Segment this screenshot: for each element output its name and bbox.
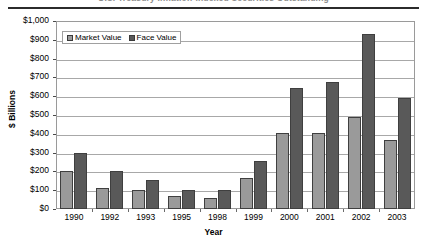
y-tick-mark	[53, 171, 56, 172]
bar	[398, 98, 411, 209]
x-tick-mark	[164, 209, 165, 212]
y-tick-mark	[53, 190, 56, 191]
x-tick-mark	[128, 209, 129, 212]
x-tick-label: 2003	[379, 212, 415, 222]
x-tick-mark	[271, 209, 272, 212]
bars-layer	[56, 21, 415, 209]
x-tick-label: 2002	[343, 212, 379, 222]
legend-item: Face Value	[129, 33, 177, 42]
y-tick-label: $0	[40, 204, 49, 213]
bar	[74, 153, 87, 209]
y-tick-label: $200	[30, 166, 49, 175]
y-tick-label: $800	[30, 54, 49, 63]
bar	[110, 171, 123, 209]
bar	[384, 140, 397, 209]
bar	[254, 161, 267, 209]
x-tick-label: 2000	[271, 212, 307, 222]
bar	[96, 188, 109, 209]
x-axis-title: Year	[0, 227, 427, 237]
chart-legend: Market ValueFace Value	[62, 31, 181, 44]
y-tick-label: $900	[30, 35, 49, 44]
y-tick-label: $300	[30, 148, 49, 157]
y-tick-mark	[53, 40, 56, 41]
x-tick-label: 1993	[128, 212, 164, 222]
y-tick-label: $400	[30, 129, 49, 138]
bar	[290, 88, 303, 209]
chart-container: $0$100$200$300$400$500$600$700$800$900$1…	[0, 0, 427, 244]
legend-label: Market Value	[75, 33, 122, 42]
x-axis-labels: 1990199219931995199819992000200120022003	[56, 212, 415, 226]
bar	[218, 190, 231, 209]
y-tick-mark	[53, 59, 56, 60]
y-tick-mark	[53, 21, 56, 22]
y-tick-mark	[53, 77, 56, 78]
bar	[146, 180, 159, 209]
x-tick-mark	[200, 209, 201, 212]
bar	[240, 178, 253, 209]
y-tick-mark	[53, 115, 56, 116]
x-tick-mark	[92, 209, 93, 212]
x-tick-label: 1999	[236, 212, 272, 222]
bar	[168, 196, 181, 209]
y-axis-title: $ Billions	[7, 69, 17, 149]
bar	[326, 82, 339, 209]
x-tick-label: 2001	[307, 212, 343, 222]
y-tick-label: $700	[30, 72, 49, 81]
bar	[348, 117, 361, 209]
y-tick-mark	[53, 134, 56, 135]
legend-item: Market Value	[67, 33, 122, 42]
y-tick-label: $500	[30, 110, 49, 119]
bar	[362, 34, 375, 209]
y-tick-mark	[53, 153, 56, 154]
y-tick-label: $600	[30, 91, 49, 100]
x-tick-mark	[379, 209, 380, 212]
x-tick-label: 1995	[164, 212, 200, 222]
x-tick-mark	[307, 209, 308, 212]
y-tick-mark	[53, 209, 56, 210]
legend-swatch-icon	[67, 35, 73, 41]
bar	[132, 190, 145, 209]
legend-swatch-icon	[129, 35, 135, 41]
y-tick-label: $100	[30, 185, 49, 194]
x-tick-label: 1990	[56, 212, 92, 222]
bar	[204, 198, 217, 209]
y-tick-label: $1,000	[23, 16, 49, 25]
bar	[60, 171, 73, 209]
x-tick-label: 1992	[92, 212, 128, 222]
bar	[276, 133, 289, 209]
legend-label: Face Value	[137, 33, 177, 42]
y-tick-mark	[53, 96, 56, 97]
x-tick-label: 1998	[200, 212, 236, 222]
bar	[182, 190, 195, 209]
x-tick-mark	[236, 209, 237, 212]
bar	[312, 133, 325, 209]
x-tick-mark	[343, 209, 344, 212]
